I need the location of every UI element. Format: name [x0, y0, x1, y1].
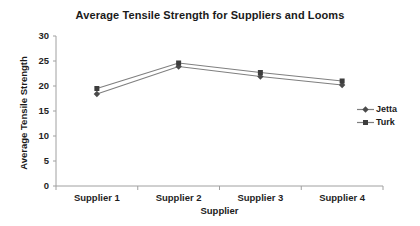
series-line-turk	[97, 63, 342, 89]
data-point-jetta	[94, 91, 100, 97]
y-tick-label: 20	[38, 80, 49, 91]
y-tick-label: 15	[38, 105, 49, 116]
series-line-jetta	[97, 67, 342, 95]
x-category-label: Supplier 3	[237, 192, 283, 203]
data-point-turk	[258, 70, 263, 75]
jetta-line-marker-icon	[357, 105, 374, 114]
legend: Jetta Turk	[357, 103, 397, 128]
y-tick-label: 10	[38, 130, 49, 141]
turk-line-marker-icon	[357, 118, 374, 127]
y-tick-label: 30	[38, 30, 49, 41]
data-point-turk	[340, 79, 345, 84]
x-category-label: Supplier 4	[319, 192, 366, 203]
legend-item-jetta: Jetta	[357, 103, 397, 115]
legend-label-jetta: Jetta	[376, 103, 397, 115]
data-point-turk	[176, 61, 181, 66]
legend-item-turk: Turk	[357, 116, 397, 128]
x-category-label: Supplier 1	[74, 192, 121, 203]
y-tick-label: 0	[44, 180, 49, 191]
x-category-label: Supplier 2	[156, 192, 202, 203]
chart: Average Tensile Strength for Suppliers a…	[0, 0, 420, 226]
y-tick-label: 25	[38, 55, 49, 66]
x-axis-title: Supplier	[56, 205, 383, 216]
legend-label-turk: Turk	[376, 116, 395, 128]
y-tick-label: 5	[44, 155, 50, 166]
data-point-turk	[94, 86, 99, 91]
